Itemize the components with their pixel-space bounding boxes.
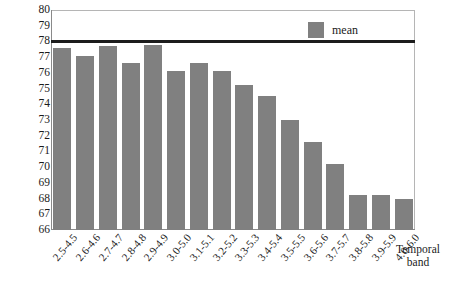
y-axis-tick-label: 68 xyxy=(26,193,50,205)
y-axis-tick-label: 75 xyxy=(26,83,50,95)
y-axis: 666768697071727374757677787980 xyxy=(26,5,50,231)
x-axis-tick-label: 2.6-4.6 xyxy=(74,232,102,263)
y-axis-tick-label: 80 xyxy=(26,4,50,16)
x-axis-tick-label: 3.8-5.8 xyxy=(347,232,375,263)
bar xyxy=(53,48,71,230)
legend-swatch-mean xyxy=(308,22,324,38)
legend: mean xyxy=(308,22,358,38)
bar xyxy=(395,199,413,230)
bar xyxy=(144,45,162,230)
x-axis-tick-label: 3.6-5.6 xyxy=(302,232,330,263)
y-axis-tick-label: 67 xyxy=(26,209,50,221)
bar xyxy=(122,63,140,230)
x-axis-tick-label: 2.8-4.8 xyxy=(120,232,148,263)
x-axis-tick-label: 3.1-5.1 xyxy=(188,232,216,263)
x-axis: 2.5-4.52.6-4.62.7-4.72.8-4.82.9-4.93.0-5… xyxy=(51,232,415,290)
bar xyxy=(213,71,231,230)
y-axis-tick-label: 66 xyxy=(26,224,50,236)
y-axis-tick-label: 69 xyxy=(26,177,50,189)
bar xyxy=(235,85,253,230)
bar xyxy=(258,96,276,230)
reference-line xyxy=(51,40,415,43)
bar xyxy=(349,195,367,230)
bar xyxy=(76,56,94,230)
x-axis-tick-label: 3.0-5.0 xyxy=(165,232,193,263)
plot-area xyxy=(51,10,415,230)
y-axis-tick-label: 72 xyxy=(26,130,50,142)
bar xyxy=(372,195,390,230)
y-axis-tick-label: 77 xyxy=(26,51,50,63)
y-axis-tick-label: 73 xyxy=(26,114,50,126)
bar xyxy=(326,164,344,230)
x-axis-tick-label: 3.2-5.2 xyxy=(211,232,239,263)
x-axis-title: Temporal band xyxy=(387,243,449,269)
x-axis-tick-label: 3.5-5.5 xyxy=(279,232,307,263)
y-axis-tick-label: 78 xyxy=(26,36,50,48)
y-axis-tick-label: 71 xyxy=(26,146,50,158)
x-axis-tick-label: 2.5-4.5 xyxy=(51,232,79,263)
y-axis-tick-label: 76 xyxy=(26,67,50,79)
y-axis-tick-label: 74 xyxy=(26,99,50,111)
x-axis-title-line2: band xyxy=(387,256,449,269)
x-axis-title-line1: Temporal xyxy=(387,243,449,256)
bar xyxy=(304,142,322,230)
y-axis-tick-label: 79 xyxy=(26,20,50,32)
legend-label-mean: mean xyxy=(332,24,358,36)
x-axis-tick-label: 3.4-5.4 xyxy=(256,232,284,263)
y-axis-tick-label: 70 xyxy=(26,161,50,173)
bar xyxy=(190,63,208,230)
bar-chart: 666768697071727374757677787980 mean 2.5-… xyxy=(0,0,449,294)
bar xyxy=(281,120,299,230)
x-axis-tick-label: 2.7-4.7 xyxy=(97,232,125,263)
bar xyxy=(167,71,185,230)
bar xyxy=(99,46,117,230)
